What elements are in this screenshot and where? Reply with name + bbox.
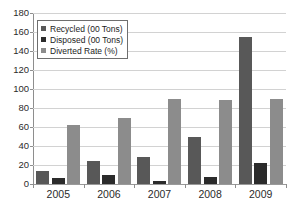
y-tick-label: 60	[0, 122, 29, 131]
y-tick-label: 120	[0, 65, 29, 74]
bar-diverted-2005[interactable]	[67, 125, 80, 184]
bar-disposed-2007[interactable]	[153, 181, 166, 184]
legend-item-label: Recycled (00 Tons)	[50, 24, 123, 34]
y-tick-label: 100	[0, 84, 29, 93]
bar-group	[235, 13, 286, 184]
x-tick-label-2007: 2007	[134, 188, 185, 201]
bar-disposed-2008[interactable]	[204, 177, 217, 184]
bar-diverted-2007[interactable]	[168, 99, 181, 185]
y-tick-label: 20	[0, 160, 29, 169]
bar-disposed-2009[interactable]	[254, 163, 267, 184]
x-tick-mark	[84, 184, 85, 188]
bar-group	[185, 13, 236, 184]
legend-item[interactable]: Disposed (00 Tons)	[41, 34, 123, 45]
bar-recycled-2007[interactable]	[137, 157, 150, 184]
gridline-0	[33, 184, 286, 185]
legend-swatch-diverted	[41, 48, 46, 53]
bar-recycled-2008[interactable]	[188, 137, 201, 185]
x-tick-label-2009: 2009	[235, 188, 286, 201]
bar-group	[134, 13, 185, 184]
bar-recycled-2005[interactable]	[36, 171, 49, 184]
y-tick-label: 40	[0, 141, 29, 150]
chart-legend: Recycled (00 Tons)Disposed (00 Tons)Dive…	[37, 20, 128, 59]
bar-disposed-2005[interactable]	[52, 178, 65, 184]
bar-diverted-2008[interactable]	[219, 100, 232, 184]
x-tick-mark	[33, 184, 34, 188]
x-tick-label-2005: 2005	[33, 188, 84, 201]
bar-recycled-2006[interactable]	[87, 161, 100, 184]
x-tick-label-2008: 2008	[185, 188, 236, 201]
bar-disposed-2006[interactable]	[102, 175, 115, 184]
y-tick-label: 140	[0, 46, 29, 55]
legend-swatch-disposed	[41, 37, 46, 42]
legend-item[interactable]: Recycled (00 Tons)	[41, 23, 123, 34]
x-tick-mark	[286, 184, 287, 188]
bar-diverted-2009[interactable]	[270, 99, 283, 185]
y-tick-label: 160	[0, 27, 29, 36]
y-tick-label: 180	[0, 8, 29, 17]
legend-item-label: Diverted Rate (%)	[50, 46, 118, 56]
bar-diverted-2006[interactable]	[118, 118, 131, 184]
x-tick-label-2006: 2006	[84, 188, 135, 201]
bar-recycled-2009[interactable]	[239, 37, 252, 184]
legend-item[interactable]: Diverted Rate (%)	[41, 45, 123, 56]
x-tick-mark	[235, 184, 236, 188]
legend-swatch-recycled	[41, 26, 46, 31]
bar-chart: 020406080100120140160180 200520062007200…	[0, 0, 294, 207]
legend-item-label: Disposed (00 Tons)	[50, 35, 123, 45]
x-tick-mark	[134, 184, 135, 188]
y-tick-label: 0	[0, 179, 29, 188]
x-axis: 20052006200720082009	[33, 188, 286, 206]
y-tick-label: 80	[0, 103, 29, 112]
x-tick-mark	[185, 184, 186, 188]
